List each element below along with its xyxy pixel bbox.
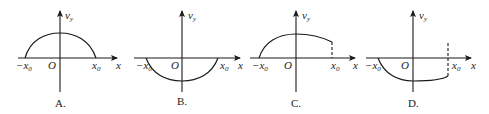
neg-x0-label: −x0 xyxy=(16,59,32,73)
y-axis-label: vy xyxy=(65,9,74,23)
option-caption: B. xyxy=(177,95,187,107)
neg-x0-label: −x0 xyxy=(252,59,268,73)
x-axis-label: x xyxy=(115,59,121,71)
pos-x0-label: x0 xyxy=(91,59,101,73)
pos-x0-label: x0 xyxy=(451,59,461,73)
y-axis-label: vy xyxy=(302,9,311,23)
pos-x0-label: x0 xyxy=(330,59,340,73)
x-axis-label: x xyxy=(470,59,476,71)
option-caption: D. xyxy=(408,97,419,109)
velocity-graphs-figure: vy x O −x0 x0 A. vy x O −x0 x0 B. vy x O… xyxy=(0,0,489,114)
origin-label: O xyxy=(401,59,409,71)
graph-option-b[interactable]: vy x O −x0 x0 B. xyxy=(134,9,243,107)
graph-option-c[interactable]: vy x O −x0 x0 C. xyxy=(250,9,358,109)
x-axis-label: x xyxy=(237,59,243,71)
y-axis-label: vy xyxy=(188,9,197,23)
pos-x0-label: x0 xyxy=(219,59,229,73)
origin-label: O xyxy=(284,59,292,71)
graph-option-d[interactable]: vy x O −x0 x0 D. xyxy=(365,9,476,109)
option-caption: A. xyxy=(55,97,66,109)
x-axis-label: x xyxy=(352,59,358,71)
origin-label: O xyxy=(171,59,179,71)
neg-x0-label: −x0 xyxy=(136,59,152,73)
option-caption: C. xyxy=(291,97,301,109)
y-axis-label: vy xyxy=(419,9,428,23)
origin-label: O xyxy=(48,59,56,71)
graph-option-a[interactable]: vy x O −x0 x0 A. xyxy=(16,9,121,109)
